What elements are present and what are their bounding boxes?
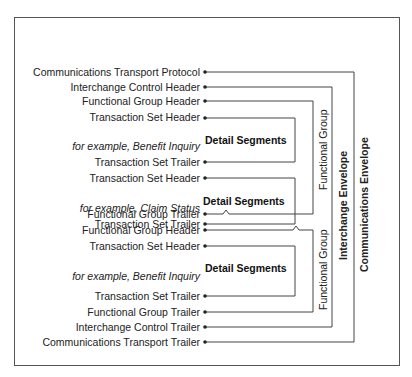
detail-segments-2: Detail Segments (203, 195, 285, 207)
label-functional-group-header: Functional Group Header (82, 224, 200, 236)
detail-segments-1: Detail Segments (205, 134, 287, 146)
label-functional-group-trailer: Functional Group Trailer (87, 306, 200, 318)
communications-envelope-label: Communications Envelope (358, 137, 370, 272)
interchange-envelope-label: Interchange Envelope (337, 151, 349, 260)
label-interchange-control-trailer: Interchange Control Trailer (76, 321, 200, 333)
functional-group-label-1: Functional Group (317, 109, 329, 190)
label-interchange-control-header: Interchange Control Header (70, 81, 200, 93)
label-functional-group-trailer: Functional Group Trailer (87, 208, 200, 220)
label-transaction-set-header: Transaction Set Header (89, 111, 200, 123)
label-comm-transport-trailer: Communications Transport Trailer (42, 336, 200, 348)
functional-group-label-2: Functional Group (317, 229, 329, 310)
label-example-benefit-inquiry: for example, Benefit Inquiry (72, 270, 200, 282)
label-example-benefit-inquiry: for example, Benefit Inquiry (72, 140, 200, 152)
label-functional-group-header: Functional Group Header (82, 95, 200, 107)
detail-segments-3: Detail Segments (205, 262, 287, 274)
label-transaction-set-header: Transaction Set Header (89, 172, 200, 184)
label-transaction-set-header: Transaction Set Header (89, 240, 200, 252)
envelope-connector-lines (0, 0, 412, 377)
label-comm-transport-protocol: Communications Transport Protocol (33, 66, 200, 78)
label-transaction-set-trailer: Transaction Set Trailer (95, 156, 200, 168)
label-transaction-set-trailer: Transaction Set Trailer (95, 290, 200, 302)
